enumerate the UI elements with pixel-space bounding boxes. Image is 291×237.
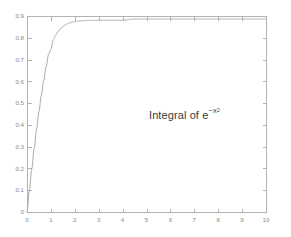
x-tick-label: 8	[216, 216, 220, 223]
y-tick-label: 0.7	[15, 56, 24, 63]
x-axis-ticks	[28, 17, 267, 213]
y-tick-label: 0.6	[15, 78, 24, 85]
y-tick-label: 0	[21, 208, 25, 215]
data-series-curve	[27, 19, 266, 212]
x-tick-label: 0	[25, 216, 29, 223]
annotation-exponent-power: 2	[217, 107, 220, 113]
annotation-exponent-base: −x	[208, 106, 216, 115]
y-tick-label: 0.5	[15, 99, 24, 106]
y-tick-label: 0.4	[15, 121, 24, 128]
y-tick-label: 0.3	[15, 143, 24, 150]
axes-box	[28, 17, 267, 213]
x-tick-label: 3	[97, 216, 101, 223]
x-tick-label: 1	[49, 216, 53, 223]
x-tick-label: 9	[240, 216, 244, 223]
y-axis-ticks	[28, 17, 267, 213]
x-tick-label: 10	[263, 216, 270, 223]
x-tick-label: 4	[121, 216, 125, 223]
x-tick-label: 2	[73, 216, 77, 223]
chart-annotation: Integral of e−x2	[149, 108, 220, 121]
series-line	[27, 19, 266, 212]
figure-canvas: 012345678910 00.10.20.30.40.50.60.70.80.…	[0, 0, 291, 237]
plot-area: 012345678910 00.10.20.30.40.50.60.70.80.…	[0, 0, 291, 237]
y-tick-label: 0.2	[15, 165, 24, 172]
x-axis-tick-labels: 012345678910	[25, 216, 270, 223]
y-tick-label: 0.8	[15, 34, 24, 41]
x-tick-label: 7	[193, 216, 197, 223]
x-tick-label: 6	[169, 216, 173, 223]
y-tick-label: 0.1	[15, 186, 24, 193]
axes-border	[28, 17, 267, 213]
y-axis-tick-labels: 00.10.20.30.40.50.60.70.80.9	[15, 12, 24, 215]
annotation-prefix: Integral of e	[149, 109, 208, 121]
y-tick-label: 0.9	[15, 12, 24, 19]
x-tick-label: 5	[145, 216, 149, 223]
